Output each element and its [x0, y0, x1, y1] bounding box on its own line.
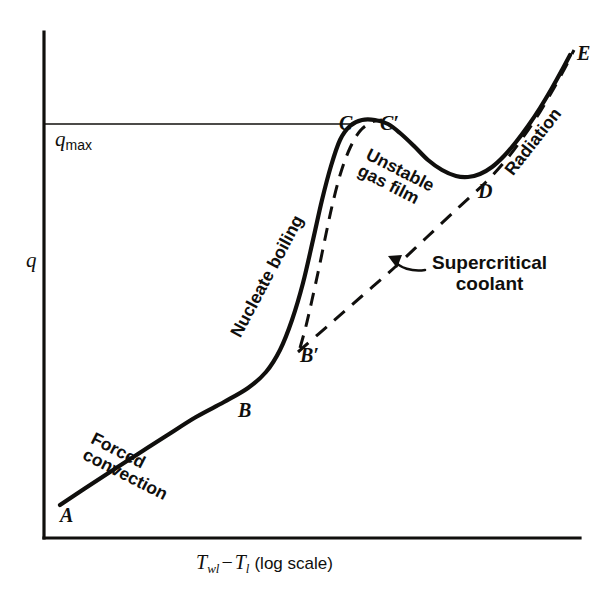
boiling-curve-figure: q qmax Twl−Tl (log scale) ABB′CC′DEForce…	[0, 0, 615, 599]
point-label-b: B	[238, 400, 251, 420]
point-label-e: E	[577, 43, 590, 63]
qmax-label-subscript: max	[66, 137, 92, 153]
y-axis-title: q	[26, 250, 37, 271]
point-label-c: C	[339, 113, 352, 133]
qmax-label-base: q	[55, 127, 66, 151]
x-axis-tliquid-subscript: l	[246, 561, 250, 576]
qmax-label: qmax	[55, 129, 92, 152]
callout-line: coolant	[432, 273, 547, 294]
point-label-d: D	[478, 181, 492, 201]
point-label-cp: C′	[380, 113, 399, 133]
point-label-a: A	[60, 505, 73, 525]
point-label-bp: B′	[300, 345, 319, 365]
callout-line: Supercritical	[432, 252, 547, 273]
x-axis-twall-subscript: wl	[207, 561, 219, 576]
x-axis-title: Twl−Tl (log scale)	[196, 552, 333, 575]
x-axis-minus-sign: −	[219, 551, 234, 573]
x-axis-tliquid-symbol: T	[235, 551, 246, 573]
supercritical-coolant-dashed	[298, 50, 574, 352]
callout-supercritical-coolant: Supercriticalcoolant	[432, 252, 547, 295]
x-axis-scale-note: (log scale)	[254, 554, 332, 573]
plot-canvas	[0, 0, 615, 599]
x-axis-twall-symbol: T	[196, 551, 207, 573]
